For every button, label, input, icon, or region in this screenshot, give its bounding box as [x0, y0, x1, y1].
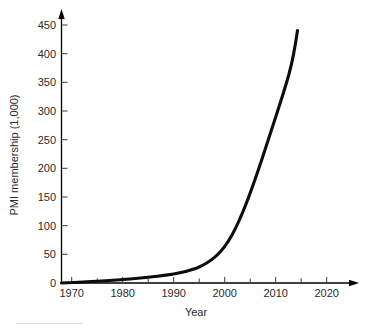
x-tick-label: 1990	[161, 287, 185, 299]
chart-container: 0 50 100 150 200 250 300 350 400 450	[0, 0, 368, 329]
y-tick-label: 400	[38, 48, 56, 60]
y-tick-label: 250	[38, 134, 56, 146]
y-tick-label: 50	[44, 248, 56, 260]
y-tick-label: 100	[38, 220, 56, 232]
x-axis-title: Year	[185, 306, 208, 318]
x-tick-label: 2020	[314, 287, 338, 299]
y-tick-label: 450	[38, 19, 56, 31]
y-tick-label: 150	[38, 191, 56, 203]
x-tick-label: 2000	[212, 287, 236, 299]
y-tick-label: 0	[50, 277, 56, 289]
x-tick-label: 1970	[59, 287, 83, 299]
y-tick-label: 350	[38, 76, 56, 88]
y-axis-title: PMI membership (1,000)	[8, 94, 20, 215]
y-tick-label: 300	[38, 105, 56, 117]
x-tick-label: 2010	[263, 287, 287, 299]
x-tick-label: 1980	[110, 287, 134, 299]
y-tick-label: 200	[38, 162, 56, 174]
line-chart: 0 50 100 150 200 250 300 350 400 450	[0, 0, 368, 329]
